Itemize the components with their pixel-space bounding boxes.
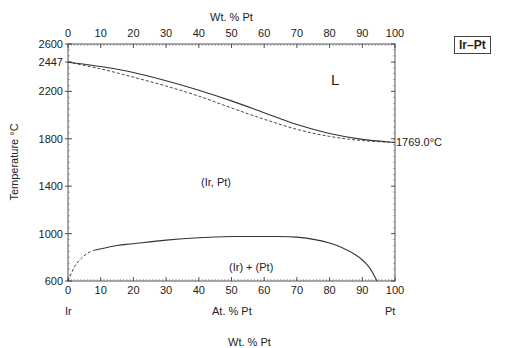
- region-solid-solution-label: (Ir, Pt): [201, 176, 231, 188]
- top-axis-title: Wt. % Pt: [210, 11, 253, 23]
- miscibility-gap-dashed--curve: [68, 250, 94, 281]
- top-tick-70: 70: [291, 27, 303, 39]
- top-tick-20: 20: [127, 27, 139, 39]
- top-tick-90: 90: [356, 27, 368, 39]
- top-tick-30: 30: [160, 27, 172, 39]
- left-tick-1400: 1400: [39, 180, 63, 192]
- top-tick-50: 50: [225, 27, 237, 39]
- left-tick-600: 600: [45, 275, 63, 287]
- left-tick-2200: 2200: [39, 85, 63, 97]
- top-tick-10: 10: [95, 27, 107, 39]
- left-tick-1800: 1800: [39, 133, 63, 145]
- solidus-curve: [68, 62, 395, 142]
- left-tick-1000: 1000: [39, 228, 63, 240]
- bottom-tick-80: 80: [323, 284, 335, 296]
- y-axis-title: Temperature °C: [8, 123, 20, 200]
- top-tick-0: 0: [65, 27, 71, 39]
- bottom-tick-0: 0: [65, 284, 71, 296]
- bottom-tick-60: 60: [258, 284, 270, 296]
- bottom-tick-50: 50: [225, 284, 237, 296]
- top-tick-40: 40: [193, 27, 205, 39]
- system-badge: Ir–Pt: [454, 36, 491, 54]
- left-tick-2600: 2600: [39, 38, 63, 50]
- region-two-phase-label: (Ir) + (Pt): [229, 261, 273, 273]
- melting-point-label: 1769.0°C: [396, 136, 442, 148]
- top-tick-100: 100: [386, 27, 404, 39]
- region-liquid-label: L: [331, 71, 339, 88]
- left-end-label: Ir: [65, 305, 72, 317]
- liquidus-curve: [68, 62, 395, 142]
- bottom-tick-70: 70: [291, 284, 303, 296]
- bottom-tick-40: 40: [193, 284, 205, 296]
- left-tick-2447: 2447: [39, 56, 63, 68]
- miscibility-gap-solid--curve: [94, 236, 377, 281]
- bottom-axis-title: At. % Pt: [212, 305, 252, 317]
- bottom-tick-10: 10: [95, 284, 107, 296]
- bottom-cut-axis-title: Wt. % Pt: [228, 336, 271, 348]
- top-tick-60: 60: [258, 27, 270, 39]
- bottom-tick-20: 20: [127, 284, 139, 296]
- bottom-tick-90: 90: [356, 284, 368, 296]
- top-tick-80: 80: [323, 27, 335, 39]
- bottom-tick-30: 30: [160, 284, 172, 296]
- bottom-tick-100: 100: [386, 284, 404, 296]
- right-end-label: Pt: [385, 305, 395, 317]
